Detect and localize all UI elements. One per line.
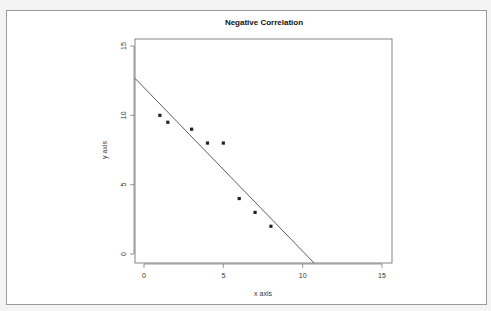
- data-point: [190, 128, 193, 131]
- y-axis: 051015: [120, 42, 134, 256]
- x-tick-label: 10: [299, 272, 307, 279]
- data-point: [158, 114, 161, 117]
- y-axis-label: y axis: [101, 141, 109, 159]
- x-axis-label: x axis: [254, 290, 272, 297]
- points-group: [158, 114, 272, 228]
- regression-line-group: [135, 78, 314, 263]
- data-point: [238, 197, 241, 200]
- y-tick-label: 15: [120, 42, 127, 50]
- x-tick-label: 15: [378, 272, 386, 279]
- y-tick-label: 10: [120, 111, 127, 119]
- x-axis: 051015: [142, 264, 386, 279]
- chart-title: Negative Correlation: [225, 18, 303, 27]
- plot-area: [135, 39, 392, 263]
- y-tick-label: 5: [120, 183, 127, 187]
- x-tick-label: 0: [142, 272, 146, 279]
- regression-line: [135, 78, 314, 263]
- data-point: [253, 211, 256, 214]
- x-tick-label: 5: [221, 272, 225, 279]
- data-point: [222, 141, 225, 144]
- scatter-chart: Negative Correlation 051015 051015 x axi…: [0, 0, 491, 311]
- data-point: [166, 121, 169, 124]
- y-tick-label: 0: [120, 252, 127, 256]
- data-point: [206, 141, 209, 144]
- data-point: [269, 225, 272, 228]
